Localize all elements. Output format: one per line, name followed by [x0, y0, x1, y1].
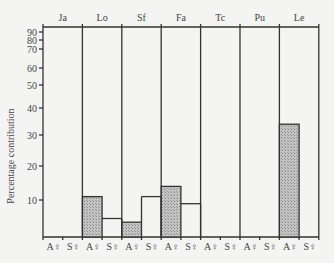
subcategory-label: S♀: [264, 241, 277, 252]
subcategory-label: S♀: [225, 241, 238, 252]
group-label: Pu: [254, 12, 265, 23]
subcategory-label: S♀: [106, 241, 119, 252]
y-tick-label: 60: [27, 63, 37, 74]
group-label: Sf: [137, 12, 147, 23]
group-label: Lo: [97, 12, 108, 23]
subcategory-label: A♀: [283, 241, 298, 252]
subcategory-label: A♀: [204, 241, 219, 252]
y-tick-label: 10: [27, 195, 37, 206]
y-tick-label: 20: [27, 161, 37, 172]
bar-fa-a: [161, 186, 181, 237]
y-tick-label: 40: [27, 103, 37, 114]
bar-chart: JaA♀S♀LoA♀S♀SfA♀S♀FaA♀S♀TcA♀S♀PuA♀S♀LeA♀…: [0, 0, 334, 263]
bar-le-a: [279, 124, 299, 237]
subcategory-label: S♀: [185, 241, 198, 252]
subcategory-label: S♀: [67, 241, 80, 252]
subcategory-label: A♀: [165, 241, 180, 252]
group-label: Le: [294, 12, 305, 23]
bar-sf-a: [122, 222, 142, 237]
bar-lo-a: [82, 197, 102, 237]
y-tick-label: 50: [27, 80, 37, 91]
subcategory-label: A♀: [86, 241, 101, 252]
subcategory-label: S♀: [303, 241, 316, 252]
bars: [82, 124, 299, 237]
subcategory-label: A♀: [46, 241, 61, 252]
group-label: Tc: [215, 12, 225, 23]
subcategory-label: A♀: [243, 241, 258, 252]
group-label: Fa: [176, 12, 187, 23]
subcategory-label: S♀: [146, 241, 159, 252]
subcategory-label: A♀: [125, 241, 140, 252]
group-label: Ja: [59, 12, 68, 23]
y-tick-label: 30: [27, 130, 37, 141]
y-tick-label: 90: [27, 27, 37, 38]
y-axis-title: Percentage contribution: [5, 108, 16, 203]
